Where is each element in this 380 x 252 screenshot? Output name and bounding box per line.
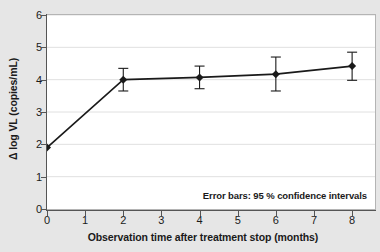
data-point-x8 — [348, 62, 356, 70]
x-tick-label-4: 4 — [196, 214, 202, 226]
gridlines — [47, 15, 375, 177]
y-tick-mark-1 — [41, 177, 46, 178]
y-tick-mark-6 — [41, 15, 46, 16]
x-tick-label-1: 1 — [82, 214, 88, 226]
y-axis-title: Δ log VL (copies/mL) — [0, 0, 26, 218]
x-axis-tick-labels: 012345678 — [46, 212, 376, 230]
x-tick-label-0: 0 — [44, 214, 50, 226]
x-tick-label-2: 2 — [120, 214, 126, 226]
x-tick-label-8: 8 — [349, 214, 355, 226]
y-tick-mark-0 — [41, 209, 46, 210]
x-axis-title: Observation time after treatment stop (m… — [26, 231, 380, 243]
plot-area: Error bars: 95 % confidence intervals — [46, 14, 376, 210]
x-axis-spine — [46, 210, 376, 211]
y-axis-title-text: Δ log VL (copies/mL) — [7, 58, 19, 160]
x-tick-label-6: 6 — [273, 214, 279, 226]
chart-figure: Δ log VL (copies/mL) 0123456 Error bars:… — [0, 0, 380, 252]
x-tick-label-3: 3 — [158, 214, 164, 226]
data-point-x4 — [196, 73, 204, 81]
y-tick-mark-2 — [41, 144, 46, 145]
data-point-x6 — [272, 70, 280, 78]
y-tick-mark-3 — [41, 112, 46, 113]
y-axis-spine — [46, 14, 47, 211]
x-tick-label-7: 7 — [311, 214, 317, 226]
chart-plot-svg — [47, 15, 375, 209]
x-tick-label-5: 5 — [235, 214, 241, 226]
chart-annotation: Error bars: 95 % confidence intervals — [203, 190, 367, 201]
y-tick-mark-5 — [41, 47, 46, 48]
y-tick-mark-4 — [41, 80, 46, 81]
error-bars — [118, 52, 357, 91]
